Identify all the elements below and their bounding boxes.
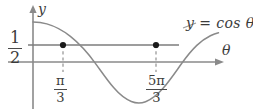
fraction-numerator: 1 <box>8 30 22 47</box>
fraction-denominator: 3 <box>54 91 67 105</box>
intersection-point-pi-over-3 <box>60 42 66 48</box>
y-axis <box>29 5 36 109</box>
equation-label: y = cos θ <box>186 16 253 30</box>
cosine-graph-figure: y θ y = cos θ 1 2 π 3 5π 3 <box>0 0 253 109</box>
x-tick-label-pi-over-3: π 3 <box>54 74 67 104</box>
x-axis <box>8 58 224 65</box>
y-axis-arrowhead <box>29 5 36 13</box>
fraction-denominator: 3 <box>146 91 167 105</box>
y-tick-label-one-half: 1 2 <box>8 30 22 67</box>
fraction-numerator: π <box>54 74 67 88</box>
x-axis-arrowhead <box>215 58 224 65</box>
fraction-numerator: 5π <box>146 74 167 88</box>
theta-axis-label: θ <box>222 43 230 57</box>
x-tick-label-5pi-over-3: 5π 3 <box>146 74 167 104</box>
fraction-denominator: 2 <box>8 50 22 67</box>
y-axis-label: y <box>38 2 46 16</box>
intersection-point-5pi-over-3 <box>153 42 159 48</box>
